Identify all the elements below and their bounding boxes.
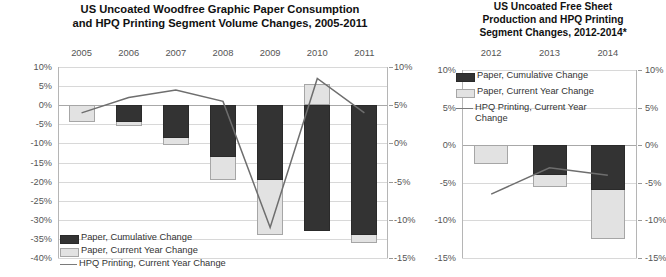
legend-item-line: HPQ Printing, Current Year Change — [456, 102, 606, 124]
y2-axis-tick-label: -10% — [394, 215, 415, 225]
y2-axis-tick-label: -15% — [394, 253, 415, 263]
x-axis-tick-label: 2012 — [471, 47, 511, 58]
legend-item-cumulative: Paper, Cumulative Change — [456, 70, 606, 82]
x-axis-tick-label: 2011 — [344, 47, 384, 58]
legend-label-line: HPQ Printing, Current Year Change — [79, 258, 226, 269]
x-axis-tick-label: 2007 — [156, 47, 196, 58]
y2-axis-tick-mark — [638, 183, 642, 184]
y2-axis-tick-mark — [389, 258, 393, 259]
legend-item-line: HPQ Printing, Current Year Change — [60, 258, 226, 269]
y-axis-tick-label: 10% — [34, 62, 52, 72]
x-axis-tick-label: 2006 — [109, 47, 149, 58]
legend-label-line: HPQ Printing, Current Year Change — [475, 102, 606, 124]
y2-axis-tick-label: 0% — [394, 138, 407, 148]
x-axis-tick-label: 2009 — [250, 47, 290, 58]
y2-axis-tick-mark — [638, 145, 642, 146]
legend-swatch-line-icon — [60, 264, 77, 265]
legend-label-current: Paper, Current Year Change — [81, 245, 198, 256]
gridline — [462, 258, 637, 259]
y2-axis-tick-label: -5% — [645, 178, 661, 188]
legend-label-cumulative: Paper, Cumulative Change — [477, 70, 588, 81]
x-axis-tick-label: 2005 — [62, 47, 102, 58]
legend-item-current: Paper, Current Year Change — [456, 86, 606, 98]
y2-axis-tick-label: 10% — [394, 62, 412, 72]
plot-area-left: 10%5%0%-5%-10%-15%-20%-25%-30%-35%-40%10… — [58, 67, 388, 258]
y-axis-tick-label: -30% — [31, 215, 52, 225]
chart-title-right-line2: Production and HPQ Printing — [483, 14, 624, 25]
x-axis-tick-label: 2008 — [203, 47, 243, 58]
y2-axis-tick-label: -5% — [394, 177, 410, 187]
chart-panel-left: US Uncoated Woodfree Graphic Paper Consu… — [0, 0, 440, 277]
y-axis-tick-label: -15% — [31, 158, 52, 168]
legend-swatch-dark-icon — [456, 73, 475, 82]
chart-panel-right: US Uncoated Free Sheet Production and HP… — [440, 0, 666, 277]
y-axis-tick-label: -5% — [36, 119, 52, 129]
y2-axis-tick-label: -10% — [645, 215, 666, 225]
y2-axis-tick-mark — [638, 108, 642, 109]
y-axis-tick-label: -5% — [440, 178, 456, 188]
chart-title-right-line3: Segment Changes, 2012-2014* — [479, 27, 626, 38]
y2-axis-tick-mark — [389, 105, 393, 106]
legend-label-cumulative: Paper, Cumulative Change — [81, 232, 192, 243]
line-series-hpq-printing — [58, 67, 388, 258]
y2-axis-tick-label: 5% — [645, 103, 658, 113]
chart-title-right: US Uncoated Free Sheet Production and HP… — [440, 1, 666, 39]
legend-swatch-light-icon — [60, 248, 79, 257]
y2-axis-tick-mark — [638, 220, 642, 221]
x-axis-tick-label: 2014 — [588, 47, 628, 58]
y2-axis-tick-label: 0% — [645, 140, 658, 150]
y-axis-tick-label: -35% — [31, 234, 52, 244]
chart-title-left: US Uncoated Woodfree Graphic Paper Consu… — [0, 2, 440, 30]
y-axis-tick-label: -15% — [435, 253, 456, 263]
y-axis-tick-label: 5% — [39, 81, 52, 91]
y2-axis-tick-mark — [638, 258, 642, 259]
y-axis-tick-label: -20% — [31, 177, 52, 187]
legend-label-current: Paper, Current Year Change — [477, 86, 594, 97]
y2-axis-tick-label: 10% — [645, 65, 663, 75]
y-axis-tick-label: -10% — [31, 138, 52, 148]
legend-item-cumulative: Paper, Cumulative Change — [60, 232, 226, 244]
chart-title-left-line2: and HPQ Printing Segment Volume Changes,… — [72, 17, 367, 29]
y2-axis-tick-label: -15% — [645, 253, 666, 263]
legend-swatch-light-icon — [456, 89, 475, 98]
chart-title-left-line1: US Uncoated Woodfree Graphic Paper Consu… — [81, 3, 360, 15]
y-axis-tick-label: 0% — [39, 100, 52, 110]
y-axis-tick-label: 10% — [438, 65, 456, 75]
y-axis-tick-label: -40% — [31, 253, 52, 263]
figure-container: US Uncoated Woodfree Graphic Paper Consu… — [0, 0, 666, 277]
y-axis-tick-label: -25% — [31, 196, 52, 206]
chart-legend-left: Paper, Cumulative Change Paper, Current … — [60, 232, 226, 270]
y2-axis-tick-mark — [638, 70, 642, 71]
legend-swatch-dark-icon — [60, 235, 79, 244]
chart-title-right-line1: US Uncoated Free Sheet — [494, 1, 612, 12]
y2-axis-tick-mark — [389, 143, 393, 144]
y-axis-tick-label: 0% — [443, 140, 456, 150]
y2-axis-tick-mark — [389, 220, 393, 221]
legend-swatch-line-icon — [456, 108, 473, 109]
chart-legend-right: Paper, Cumulative Change Paper, Current … — [456, 70, 606, 128]
y-axis-tick-label: -10% — [435, 215, 456, 225]
y2-axis-tick-mark — [389, 182, 393, 183]
y2-axis-tick-mark — [389, 67, 393, 68]
x-axis-tick-label: 2013 — [530, 47, 570, 58]
y2-axis-tick-label: 5% — [394, 100, 407, 110]
legend-item-current: Paper, Current Year Change — [60, 245, 226, 257]
x-axis-tick-label: 2010 — [297, 47, 337, 58]
y-axis-tick-label: 5% — [443, 103, 456, 113]
